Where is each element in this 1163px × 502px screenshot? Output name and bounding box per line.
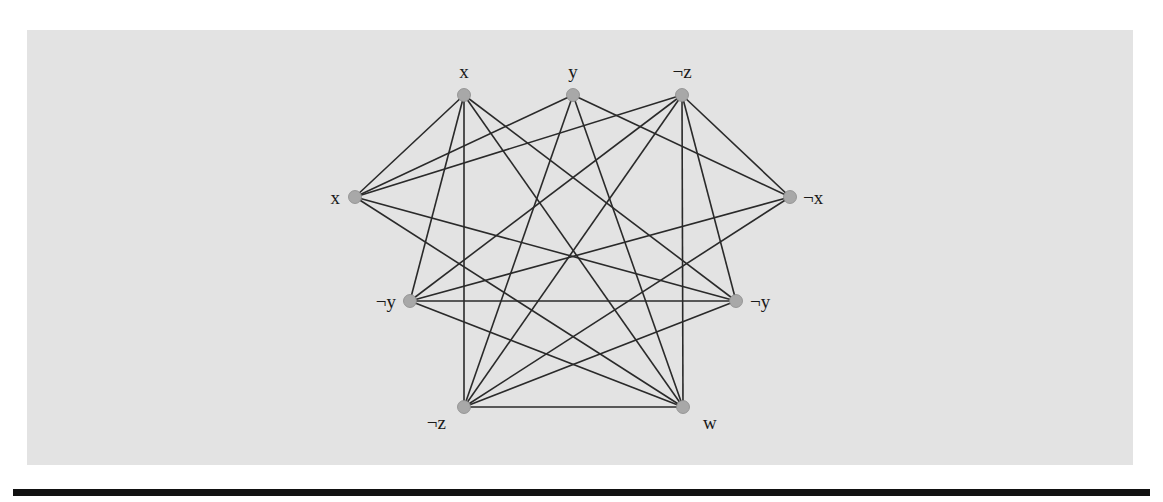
graph-node xyxy=(458,401,471,414)
graph-edge xyxy=(464,301,736,407)
graph-node xyxy=(458,89,471,102)
graph-edge xyxy=(355,197,736,301)
node-label: y xyxy=(568,61,578,82)
node-label: ¬z xyxy=(427,412,446,433)
graph-diagram: xy¬zx¬x¬y¬y¬zw xyxy=(0,0,1163,502)
edge-layer xyxy=(355,95,790,407)
graph-edge xyxy=(682,95,683,407)
graph-edge xyxy=(355,95,464,197)
graph-node xyxy=(349,191,362,204)
graph-edge xyxy=(464,95,573,407)
node-label: x xyxy=(331,187,341,208)
node-label: ¬y xyxy=(376,291,397,312)
graph-edge xyxy=(682,95,790,197)
node-label: ¬z xyxy=(672,61,691,82)
graph-edge xyxy=(410,95,682,301)
graph-node xyxy=(677,401,690,414)
graph-node xyxy=(567,89,580,102)
node-label: ¬x xyxy=(803,187,824,208)
node-label: w xyxy=(703,412,717,433)
graph-node xyxy=(676,89,689,102)
graph-edge xyxy=(682,95,736,301)
graph-edge xyxy=(464,95,736,301)
node-label: x xyxy=(459,61,469,82)
graph-edge xyxy=(410,95,464,301)
graph-edge xyxy=(410,301,683,407)
graph-node xyxy=(404,295,417,308)
horizontal-rule xyxy=(13,489,1150,496)
graph-node xyxy=(730,295,743,308)
node-label: ¬y xyxy=(750,291,771,312)
graph-node xyxy=(784,191,797,204)
graph-edge xyxy=(573,95,683,407)
graph-edge xyxy=(355,95,682,197)
label-layer: xy¬zx¬x¬y¬y¬zw xyxy=(331,61,824,433)
